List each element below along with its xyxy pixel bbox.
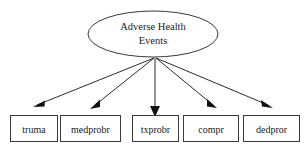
node-truma[interactable]: truma <box>11 116 58 142</box>
diagram-canvas: Adverse Health Events truma medprobr txp… <box>0 0 307 150</box>
box-label-txprobr: txprobr <box>141 124 171 135</box>
edge-line-medprobr <box>94 58 154 106</box>
edge-line-compr <box>156 58 213 105</box>
arrowhead-dedpror <box>261 100 273 108</box>
edge-group <box>33 58 273 117</box>
node-compr[interactable]: compr <box>184 116 239 142</box>
arrowhead-truma <box>33 101 45 108</box>
ellipse-label-line-1: Adverse Health <box>120 21 186 32</box>
edge-to-dedpror <box>156 58 273 108</box>
node-adverse-health-events[interactable]: Adverse Health Events <box>88 11 218 57</box>
box-label-truma: truma <box>22 124 46 135</box>
box-label-dedpror: dedpror <box>256 124 288 135</box>
node-medprobr[interactable]: medprobr <box>61 116 121 142</box>
edge-line-truma <box>37 58 154 105</box>
edge-to-txprobr <box>150 58 160 117</box>
edge-line-dedpror <box>156 58 268 105</box>
node-dedpror[interactable]: dedpror <box>244 116 300 142</box>
path-diagram: Adverse Health Events truma medprobr txp… <box>0 0 307 150</box>
arrowhead-medprobr <box>90 100 100 110</box>
box-label-compr: compr <box>198 124 224 135</box>
ellipse-shape <box>88 11 218 57</box>
arrowhead-compr <box>207 99 217 108</box>
edge-to-medprobr <box>90 58 154 109</box>
edge-to-compr <box>156 58 217 108</box>
edge-to-truma <box>33 58 154 107</box>
ellipse-label-line-2: Events <box>139 35 168 46</box>
node-txprobr[interactable]: txprobr <box>133 116 179 142</box>
box-label-medprobr: medprobr <box>71 124 111 135</box>
